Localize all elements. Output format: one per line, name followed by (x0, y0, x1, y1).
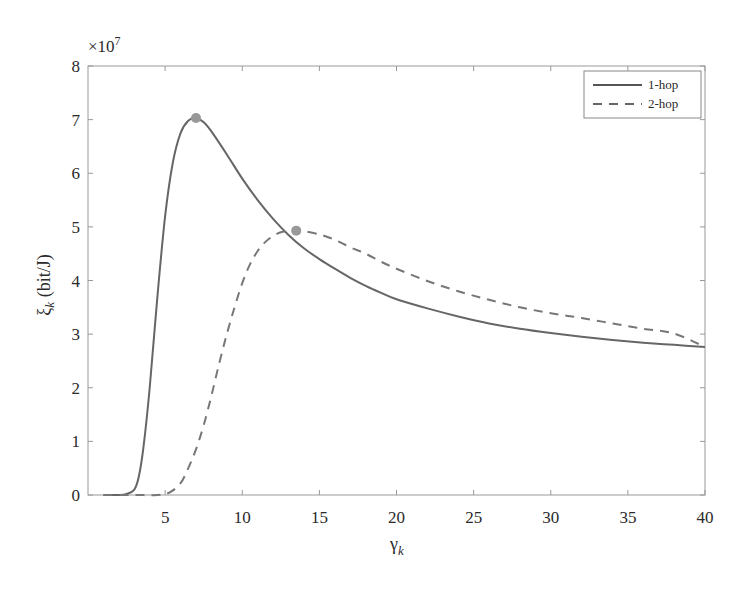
x-tick-label: 15 (311, 508, 328, 527)
x-tick-label: 30 (542, 508, 559, 527)
y-axis: 012345678 (72, 57, 706, 505)
y-multiplier: ×107 (88, 34, 121, 56)
y-tick-label: 3 (72, 325, 81, 344)
y-axis-label: ξk (bit/J) (34, 254, 57, 315)
y-tick-label: 4 (72, 272, 81, 291)
y-tick-label: 1 (72, 432, 81, 451)
chart-canvas: 012345678 510152025303540 ×107 ξk (bit/J… (0, 0, 752, 593)
x-axis-label: γk (389, 534, 404, 558)
x-tick-label: 20 (388, 508, 405, 527)
y-tick-label: 5 (72, 218, 81, 237)
y-tick-label: 8 (72, 57, 81, 76)
series-line-2-hop (103, 230, 705, 495)
plot-series (103, 113, 705, 495)
plot-frame (88, 66, 705, 495)
legend-label-1hop: 1-hop (648, 77, 678, 92)
series-line-1-hop (103, 118, 705, 495)
peak-marker-1-hop (191, 113, 201, 123)
y-tick-label: 0 (72, 486, 81, 505)
y-tick-label: 2 (72, 379, 81, 398)
svg-text:ξk (bit/J): ξk (bit/J) (34, 254, 57, 315)
x-tick-label: 10 (234, 508, 251, 527)
x-tick-label: 35 (619, 508, 636, 527)
peak-marker-2-hop (291, 226, 301, 236)
x-tick-label: 5 (161, 508, 170, 527)
x-tick-label: 25 (465, 508, 482, 527)
legend: 1-hop 2-hop (584, 71, 701, 118)
x-tick-label: 40 (697, 508, 714, 527)
y-tick-label: 6 (72, 164, 81, 183)
y-tick-label: 7 (72, 111, 81, 130)
x-axis: 510152025303540 (161, 66, 714, 527)
legend-label-2hop: 2-hop (648, 96, 678, 111)
